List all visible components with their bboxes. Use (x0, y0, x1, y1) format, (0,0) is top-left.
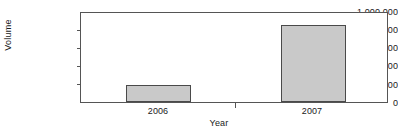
x-axis-title: Year (210, 118, 229, 128)
bar-2007 (281, 25, 346, 102)
y-tick-mark-800000 (77, 30, 81, 31)
bar-chart-figure: Volume 1,000,000 800,000 600,000 400,000… (0, 0, 398, 138)
plot-area (80, 12, 388, 103)
x-axis-title-wrapper: Year (0, 118, 398, 128)
bar-2006 (126, 85, 191, 102)
x-tick-label-2006: 2006 (127, 106, 189, 116)
y-tick-mark-200000 (77, 84, 81, 85)
x-tick-label-2007: 2007 (281, 106, 343, 116)
y-tick-mark-400000 (77, 66, 81, 67)
y-tick-mark-600000 (77, 48, 81, 49)
y-axis-title: Volume (3, 5, 13, 65)
x-tick-mark-separator (235, 103, 236, 108)
